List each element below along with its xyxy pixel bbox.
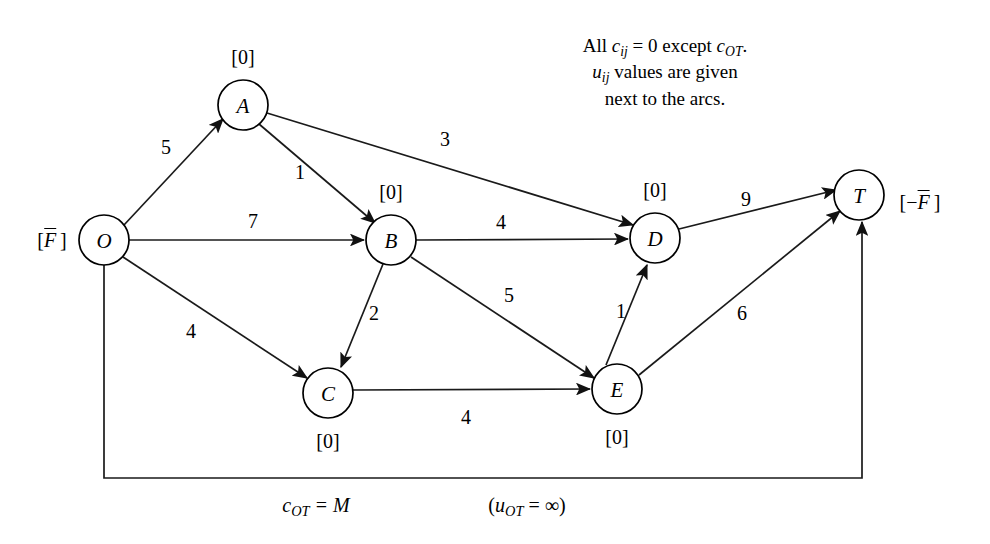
arc-O-A <box>124 119 223 225</box>
arc-label-O-C: 4 <box>186 320 196 343</box>
arc-label-A-D: 3 <box>440 128 450 151</box>
arc-label-A-B: 1 <box>295 161 305 184</box>
network-flow-diagram: O A B C D E T [F ] [0] [0] [0] [0] [0] [… <box>0 0 990 544</box>
node-D-label: D <box>646 227 662 251</box>
arc-label-B-D: 4 <box>496 211 506 234</box>
node-supply-A: [0] <box>231 46 254 69</box>
arc-C-E <box>353 389 590 390</box>
arc-label-O-A: 5 <box>161 136 171 159</box>
node-O-label: O <box>96 229 111 253</box>
node-B-label: B <box>385 229 398 253</box>
node-supply-D: [0] <box>643 179 666 202</box>
arc-O-C <box>123 257 307 378</box>
caption-line-2: uij values are given <box>583 60 748 86</box>
arc-label-E-D: 1 <box>616 300 626 323</box>
node-supply-E: [0] <box>605 426 628 449</box>
arc-label-D-T: 9 <box>741 188 751 211</box>
arc-A-D <box>267 113 633 225</box>
node-supply-T: [−F ] <box>900 190 941 214</box>
arc-label-E-T: 6 <box>737 302 747 325</box>
arc-label-O-B: 7 <box>248 210 258 233</box>
arc-label-C-E: 4 <box>461 406 471 429</box>
bottom-capacity-label: (uOT = ∞) <box>488 494 565 520</box>
node-A-label: A <box>235 94 250 118</box>
arc-B-E <box>411 257 594 378</box>
node-supply-C: [0] <box>316 430 339 453</box>
arc-A-B <box>259 124 375 223</box>
diagram-canvas: O A B C D E T <box>0 0 990 544</box>
node-supply-O: [F ] <box>37 228 67 252</box>
diagram-caption: All cij = 0 except cOT. uij values are g… <box>583 34 748 111</box>
arc-label-B-C: 2 <box>369 302 379 325</box>
arc-B-D <box>416 239 628 240</box>
node-supply-B: [0] <box>379 181 402 204</box>
bottom-cost-label: cOT = M <box>282 494 349 520</box>
caption-line-1: All cij = 0 except cOT. <box>583 34 748 60</box>
caption-line-3: next to the arcs. <box>583 87 748 111</box>
arc-label-B-E: 5 <box>504 284 514 307</box>
node-layer: O A B C D E T <box>79 80 884 418</box>
arc-D-T <box>679 190 836 229</box>
arc-layer <box>104 113 862 478</box>
arc-O-T <box>104 222 862 478</box>
node-T-label: T <box>853 184 866 208</box>
node-C-label: C <box>321 382 336 406</box>
arc-E-D <box>606 265 647 365</box>
node-E-label: E <box>610 378 624 402</box>
